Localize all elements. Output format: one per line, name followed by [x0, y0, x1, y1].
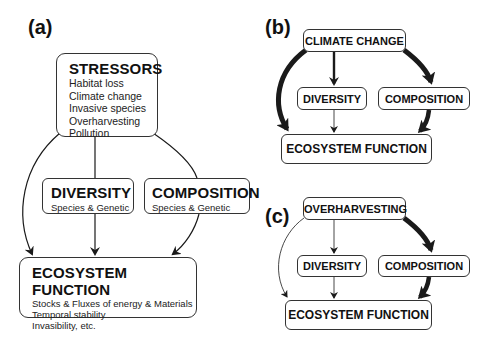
stressor-item: Climate change [69, 90, 157, 103]
overharvesting-box: OVERHARVESTING [303, 197, 406, 220]
ecosystem-function-label: ECOSYSTEM FUNCTION [286, 308, 431, 322]
ecosystem-function-box-c: ECOSYSTEM FUNCTION [285, 300, 432, 330]
stressor-item: Pollution [69, 127, 157, 140]
panel-a-label: (a) [28, 16, 52, 39]
composition-label: COMPOSITION [379, 93, 469, 105]
diversity-box-c: DIVERSITY [297, 255, 367, 277]
stressors-box: STRESSORS Habitat loss Climate change In… [56, 53, 158, 137]
diversity-label: DIVERSITY [298, 93, 366, 105]
arrow-composition-to-ecosystem [173, 214, 199, 254]
ecosystem-function-title: ECOSYSTEM FUNCTION [32, 264, 196, 298]
panel-c-label: (c) [265, 205, 289, 228]
stressor-item: Overharvesting [69, 115, 157, 128]
ecosystem-function-box-b: ECOSYSTEM FUNCTION [281, 134, 432, 164]
stressors-title: STRESSORS [69, 60, 157, 77]
arrow-overharvesting-to-composition [404, 218, 431, 250]
ecosystem-function-item: Stocks & Fluxes of energy & Materials [32, 298, 196, 309]
composition-title: COMPOSITION [152, 184, 249, 201]
composition-box-c: COMPOSITION [378, 255, 470, 277]
panel-b-label: (b) [265, 16, 291, 39]
stressor-item: Invasive species [69, 102, 157, 115]
ecosystem-function-item: Temporal stability [32, 309, 196, 320]
arrow-climate-to-composition [404, 50, 431, 82]
composition-label: COMPOSITION [379, 260, 469, 272]
climate-change-box: CLIMATE CHANGE [303, 29, 406, 52]
diversity-box-b: DIVERSITY [297, 87, 367, 110]
ecosystem-function-item: Invasibility, etc. [32, 320, 196, 331]
climate-change-label: CLIMATE CHANGE [304, 35, 405, 47]
line-stressors-to-composition [153, 133, 197, 178]
composition-box-b: COMPOSITION [378, 87, 470, 110]
composition-subtitle: Species & Genetic [152, 202, 249, 213]
overharvesting-label: OVERHARVESTING [304, 203, 405, 215]
diversity-box-a: DIVERSITY Species & Genetic [42, 178, 134, 214]
diversity-subtitle: Species & Genetic [51, 202, 133, 213]
ecosystem-function-box-a: ECOSYSTEM FUNCTION Stocks & Fluxes of en… [19, 257, 197, 318]
stressor-item: Habitat loss [69, 77, 157, 90]
arrow-composition-to-ecosystem [420, 277, 429, 297]
arrow-composition-to-ecosystem [420, 110, 429, 131]
diversity-label: DIVERSITY [298, 260, 366, 272]
diversity-title: DIVERSITY [51, 184, 133, 201]
ecosystem-function-label: ECOSYSTEM FUNCTION [282, 142, 431, 156]
composition-box-a: COMPOSITION Species & Genetic [144, 178, 250, 214]
